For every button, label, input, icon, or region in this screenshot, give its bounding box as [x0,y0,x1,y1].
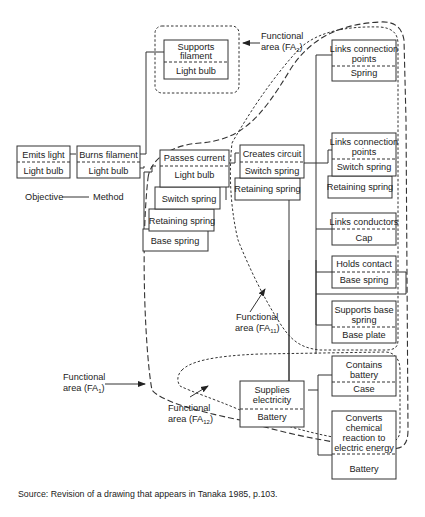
node-object: Light bulb [89,166,129,176]
node-object: Switch spring [337,162,392,172]
node-links-conductors[interactable]: Links conductors Cap [330,213,399,245]
node-object: Case [353,384,374,394]
legend-objective: Objective [25,192,63,202]
node-function: reaction to [343,433,386,443]
node-links-connection-switch[interactable]: Retaining spring Links connection points… [327,133,398,198]
node-function: Supplies [254,385,290,395]
node-function: electricity [253,395,292,405]
node-object-stack: Base spring [151,236,200,246]
node-function: Converts [346,413,383,423]
legend-objective-method: Objective Method [25,192,124,202]
svg-text:Functional: Functional [236,312,278,322]
node-emits-light[interactable]: Emits light Light bulb [17,146,70,178]
label-fa1: Functional area (FA1) [63,372,145,394]
svg-text:Functional: Functional [63,372,105,382]
label-fa2: Functional area (FA2) [243,31,303,53]
node-object-stack: Retaining spring [149,216,215,226]
node-function: points [352,54,377,64]
node-function: Supports [178,42,215,52]
node-function: Supports base [334,305,393,315]
node-supports-filament[interactable]: Supports filament Light bulb [164,40,228,79]
svg-text:area (FA12): area (FA12) [168,414,213,425]
node-object: Battery [349,464,379,474]
node-function: Links connection [330,137,398,147]
source-caption: Source: Revision of a drawing that appea… [18,489,278,499]
node-object: Base plate [342,330,385,340]
node-function: Links conductors [330,217,399,227]
node-object: Light bulb [175,170,215,180]
node-function: Burns filament [79,150,138,160]
node-function: Passes current [164,153,226,163]
node-function: points [352,147,377,157]
svg-text:Functional: Functional [261,31,303,41]
node-object: Light bulb [24,166,64,176]
node-object: Light bulb [176,66,216,76]
svg-text:Functional: Functional [168,403,210,413]
node-links-connection-spring[interactable]: Links connection points Spring [330,40,398,81]
node-function: chemical [346,423,382,433]
node-function: Creates circuit [243,149,302,159]
function-tree-diagram: Emits light Light bulb Burns filament Li… [0,0,425,517]
svg-text:area (FA2): area (FA2) [261,42,303,53]
node-holds-contact[interactable]: Holds contact Base spring [332,256,396,288]
node-function: filament [180,51,213,61]
node-converts-chemical[interactable]: Converts chemical reaction to electric e… [332,411,396,479]
svg-text:area (FA1): area (FA1) [63,383,105,394]
node-function: Emits light [22,150,65,160]
node-object: Base spring [340,275,389,285]
node-function: electric energy [334,443,394,453]
node-supports-base-spring[interactable]: Supports base spring Base plate [332,301,396,343]
node-burns-filament[interactable]: Burns filament Light bulb [77,146,140,178]
node-function: Contains [346,360,383,370]
node-object: Switch spring [245,166,300,176]
label-fa11: Functional area (FA11) [235,289,280,334]
node-object-stack: Retaining spring [234,184,300,194]
node-creates-circuit[interactable]: Retaining spring Creates circuit Switch … [234,145,304,200]
node-supplies-electricity[interactable]: Supplies electricity Battery [240,381,304,427]
node-passes-current[interactable]: Base spring Retaining spring Switch spri… [143,150,229,251]
node-object: Battery [257,412,287,422]
node-object-stack: Switch spring [162,194,217,204]
node-object: Cap [356,233,373,243]
node-function: Links connection [330,44,398,54]
node-object: Spring [351,68,378,78]
label-fa12: Functional area (FA12) [168,386,213,425]
node-function: battery [350,370,378,380]
legend-method: Method [93,192,124,202]
node-object-stack: Retaining spring [327,182,393,192]
node-function: spring [351,315,376,325]
node-function: Holds contact [336,259,392,269]
node-contains-battery[interactable]: Contains battery Case [332,356,396,396]
svg-text:area (FA11): area (FA11) [235,323,280,334]
